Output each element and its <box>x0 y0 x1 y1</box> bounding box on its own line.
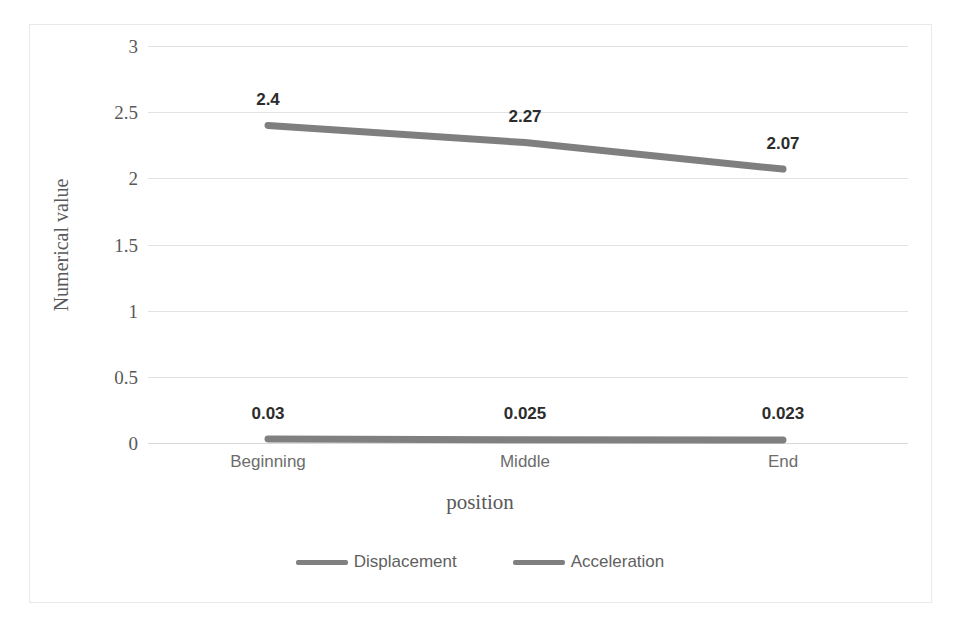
chart-legend: Displacement Acceleration <box>0 552 960 572</box>
x-tick-label-end: End <box>673 452 893 472</box>
data-label-displacement-middle: 0.025 <box>445 404 605 424</box>
legend-label-displacement: Displacement <box>354 552 457 572</box>
x-axis-title: position <box>0 490 960 515</box>
series-line-displacement <box>268 439 783 440</box>
series-lines <box>0 0 960 629</box>
x-tick-label-beginning: Beginning <box>158 452 378 472</box>
legend-item-acceleration[interactable]: Acceleration <box>513 552 665 572</box>
legend-swatch-displacement-icon <box>296 560 348 565</box>
data-label-acceleration-end: 2.07 <box>703 134 863 154</box>
data-label-acceleration-middle: 2.27 <box>445 107 605 127</box>
data-label-displacement-beginning: 0.03 <box>188 404 348 424</box>
data-label-acceleration-beginning: 2.4 <box>188 90 348 110</box>
data-label-displacement-end: 0.023 <box>703 404 863 424</box>
legend-swatch-acceleration-icon <box>513 560 565 565</box>
line-chart: 3 2.5 2 1.5 1 0.5 0 Numerical value 2.4 … <box>0 0 960 629</box>
legend-item-displacement[interactable]: Displacement <box>296 552 457 572</box>
legend-label-acceleration: Acceleration <box>571 552 665 572</box>
x-tick-label-middle: Middle <box>415 452 635 472</box>
